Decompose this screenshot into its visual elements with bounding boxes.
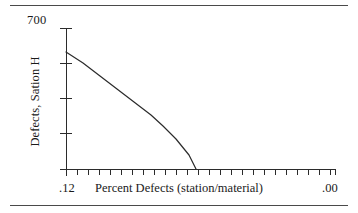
figure-frame: 700 Defects, Sation H .12 Percent Defect…	[0, 0, 358, 213]
y-axis	[60, 28, 72, 169]
x-axis-tick-label-right: .00	[322, 181, 338, 196]
y-axis-title-text: Defects, Sation H	[28, 56, 43, 146]
y-axis-max-label: 700	[27, 13, 46, 27]
x-axis	[66, 169, 335, 176]
y-axis-title: Defects, Sation H	[26, 36, 44, 166]
data-series-defects-station-h	[66, 52, 196, 169]
x-axis-title: Percent Defects (station/material)	[0, 181, 358, 196]
